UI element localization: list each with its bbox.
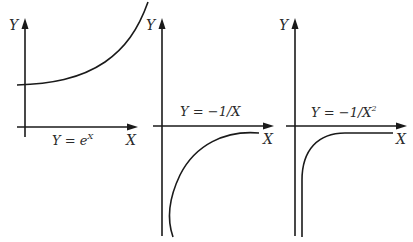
x-axis-arrow-icon <box>396 123 407 130</box>
y-axis-label-neg-reciprocal: Y <box>146 18 155 32</box>
x-axis-label-neg-reciprocal: X <box>263 132 273 146</box>
exp-curve <box>17 2 148 85</box>
x-axis-label-neg-reciprocal-square: X <box>396 132 406 146</box>
equation-neg-reciprocal-square: Y = −1/X2 <box>311 105 377 119</box>
equation-neg-reciprocal-base: Y = −1/X <box>180 104 241 119</box>
equation-neg-reciprocal-square-base: Y = −1/X <box>311 105 372 120</box>
diagram-drawing <box>0 0 413 242</box>
y-axis-label-neg-reciprocal-square: Y <box>279 18 288 32</box>
x-axis-label-exp: X <box>126 133 136 147</box>
panel-neg-reciprocal-square <box>286 18 407 237</box>
equation-exp: Y = eX <box>52 133 93 147</box>
neg-reciprocal-curve <box>169 133 259 237</box>
panel-neg-reciprocal <box>153 18 274 237</box>
x-axis-arrow-icon <box>263 123 274 130</box>
equation-exp-base: Y = e <box>52 133 87 148</box>
y-axis-label-exp: Y <box>9 18 18 32</box>
y-axis-arrow-icon <box>159 18 166 29</box>
y-axis-arrow-icon <box>292 18 299 29</box>
y-axis-arrow-icon <box>22 18 29 29</box>
equation-neg-reciprocal: Y = −1/X <box>180 105 241 118</box>
equation-neg-reciprocal-square-exponent: 2 <box>372 104 377 113</box>
function-sketches-figure: Y X Y = eX Y X Y = −1/X Y X Y = −1/X2 <box>0 0 413 242</box>
panel-exp <box>17 2 148 137</box>
x-axis-arrow-icon <box>127 124 138 131</box>
equation-exp-exponent: X <box>87 132 93 141</box>
neg-reciprocal-square-curve <box>302 133 393 237</box>
